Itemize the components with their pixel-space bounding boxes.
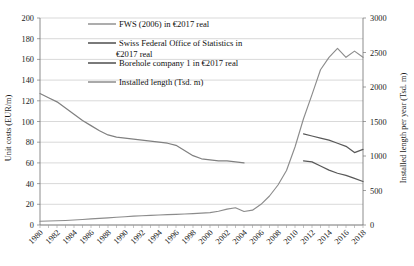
x-tick-label: 1986 xyxy=(78,228,96,246)
x-tick-label: 2014 xyxy=(316,227,335,246)
legend-label-4: Installed length (Tsd. m) xyxy=(119,77,204,87)
x-tick-label: 1984 xyxy=(61,227,80,246)
legend-label-3: Borehole company 1 in €2017 real xyxy=(119,58,239,68)
y-tick-label: 80 xyxy=(26,138,34,147)
y2-axis: 050010001500200025003000 xyxy=(363,14,387,230)
x-tick-label: 2000 xyxy=(197,228,215,246)
y-tick-label: 160 xyxy=(22,55,34,64)
y-axis-title: Unit costs (EUR/m) xyxy=(4,95,13,162)
gridlines xyxy=(40,18,363,225)
y-tick-label: 40 xyxy=(26,180,34,189)
x-tick-label: 1998 xyxy=(180,228,198,246)
y2-tick-label: 1000 xyxy=(370,152,387,161)
y-tick-label: 60 xyxy=(26,159,34,168)
y-tick-label: 100 xyxy=(22,118,34,127)
y-tick-label: 180 xyxy=(22,35,34,44)
plot-series xyxy=(40,48,363,221)
x-tick-label: 2012 xyxy=(299,228,317,246)
y2-tick-label: 2000 xyxy=(370,83,387,92)
y-tick-label: 0 xyxy=(30,221,34,230)
chart-legend: FWS (2006) in €2017 realSwiss Federal Of… xyxy=(88,19,243,87)
x-tick-label: 1988 xyxy=(95,228,113,246)
y-axis: 020406080100120140160180200 xyxy=(22,14,40,230)
series-line-3 xyxy=(40,48,363,221)
y-tick-label: 120 xyxy=(22,97,34,106)
x-tick-label: 2004 xyxy=(231,227,250,246)
x-tick-label: 1980 xyxy=(27,228,45,246)
legend-label-1: Swiss Federal Office of Statistics in xyxy=(119,38,243,48)
y-tick-label: 140 xyxy=(22,76,34,85)
y2-tick-label: 2500 xyxy=(370,49,387,58)
y2-tick-label: 500 xyxy=(370,187,382,196)
x-tick-label: 2016 xyxy=(333,228,351,246)
x-tick-label: 1990 xyxy=(112,228,130,246)
x-tick-label: 1992 xyxy=(129,228,147,246)
series-line-2 xyxy=(304,161,364,182)
x-tick-label: 2002 xyxy=(214,228,232,246)
y2-tick-label: 3000 xyxy=(370,14,387,23)
y-tick-label: 200 xyxy=(22,14,34,23)
legend-label-0: FWS (2006) in €2017 real xyxy=(119,19,210,29)
chart-container: 020406080100120140160180200 050010001500… xyxy=(0,0,414,266)
x-tick-label: 2010 xyxy=(282,228,300,246)
x-tick-label: 2008 xyxy=(265,228,283,246)
series-line-0 xyxy=(40,94,244,163)
y2-tick-label: 1500 xyxy=(370,118,387,127)
y2-tick-label: 0 xyxy=(370,221,374,230)
series-line-1 xyxy=(304,134,364,153)
x-tick-label: 1982 xyxy=(44,228,62,246)
x-tick-label: 2006 xyxy=(248,228,266,246)
x-tick-label: 1994 xyxy=(146,227,165,246)
line-chart: 020406080100120140160180200 050010001500… xyxy=(0,0,414,266)
x-tick-label: 2018 xyxy=(350,228,368,246)
x-axis: 1980198219841986198819901992199419961998… xyxy=(27,225,368,246)
y2-axis-title: Installed length per year (Tsd. m) xyxy=(399,73,408,184)
x-tick-label: 1996 xyxy=(163,228,181,246)
y-tick-label: 20 xyxy=(26,200,34,209)
